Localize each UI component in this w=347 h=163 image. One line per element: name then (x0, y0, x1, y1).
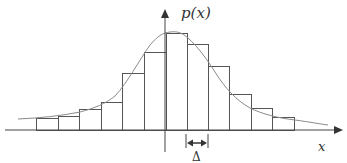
histogram-bar (252, 109, 273, 131)
histogram-bar (167, 34, 188, 131)
histogram-bar (145, 53, 167, 131)
bin-width-label: Δ (192, 151, 201, 163)
y-axis-label: p(x) (181, 6, 211, 21)
histogram-bar (230, 95, 252, 131)
x-axis-label: x (318, 140, 325, 153)
histogram-bar (37, 119, 59, 131)
histogram-plot (0, 0, 347, 163)
y-axis-arrow-icon (161, 9, 169, 18)
histogram-bar (209, 67, 230, 131)
histogram-bar (102, 103, 123, 131)
histogram-bar (80, 110, 102, 131)
histogram-bar (59, 117, 80, 131)
arrow-right-icon (201, 140, 207, 147)
bin-width-marker (186, 134, 208, 148)
histogram-diagram: p(x) x Δ (0, 0, 347, 163)
arrow-left-icon (187, 140, 193, 147)
x-axis-arrow-icon (334, 126, 343, 134)
